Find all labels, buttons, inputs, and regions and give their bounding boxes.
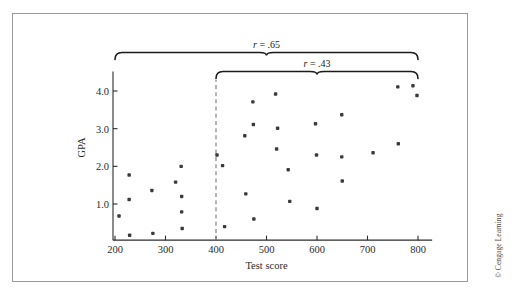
correlation-value: = .65 bbox=[257, 39, 280, 50]
x-tick-label: 800 bbox=[410, 244, 426, 255]
x-axis-title: Test score bbox=[245, 260, 287, 271]
data-point bbox=[180, 227, 183, 230]
x-tick-label: 300 bbox=[158, 244, 174, 255]
y-tick-label: 3.0 bbox=[87, 123, 109, 134]
y-axis-title: GPA bbox=[76, 124, 87, 172]
data-point bbox=[315, 153, 318, 156]
y-tick-label: 4.0 bbox=[87, 86, 109, 97]
data-point bbox=[415, 94, 418, 97]
data-point bbox=[174, 180, 177, 183]
data-points-group bbox=[117, 84, 418, 237]
data-point bbox=[275, 147, 278, 150]
data-point bbox=[340, 155, 343, 158]
data-point bbox=[221, 164, 224, 167]
data-point bbox=[128, 234, 131, 237]
y-tick-label: 1.0 bbox=[87, 199, 109, 210]
data-point bbox=[117, 214, 120, 217]
data-point bbox=[243, 134, 246, 137]
data-point bbox=[396, 85, 399, 88]
data-point bbox=[288, 200, 291, 203]
data-point bbox=[252, 217, 255, 220]
x-tick-label: 700 bbox=[360, 244, 376, 255]
data-point bbox=[251, 100, 254, 103]
x-tick-label: 200 bbox=[107, 244, 123, 255]
correlation-value: = .43 bbox=[307, 58, 330, 69]
data-point bbox=[340, 113, 343, 116]
data-point bbox=[397, 142, 400, 145]
data-point bbox=[314, 122, 317, 125]
data-point bbox=[276, 127, 279, 130]
axes-group bbox=[113, 71, 432, 240]
data-point bbox=[244, 192, 247, 195]
figure-container: 200300400500600700800 1.02.03.04.0 Test … bbox=[0, 0, 512, 292]
data-point bbox=[341, 179, 344, 182]
x-tick-label: 500 bbox=[259, 244, 275, 255]
data-point bbox=[127, 173, 130, 176]
data-point bbox=[287, 168, 290, 171]
data-point bbox=[150, 189, 153, 192]
data-point bbox=[223, 225, 226, 228]
copyright-credit: © Cengage Learning bbox=[494, 213, 503, 278]
data-point bbox=[274, 92, 277, 95]
x-tick-label: 400 bbox=[208, 244, 224, 255]
data-point bbox=[371, 151, 374, 154]
data-point bbox=[179, 165, 182, 168]
data-point bbox=[411, 84, 414, 87]
y-tick-label: 2.0 bbox=[87, 161, 109, 172]
data-point bbox=[151, 232, 154, 235]
brace-full-range-label: r = .65 bbox=[253, 39, 280, 50]
brace-restricted-range-label: r = .43 bbox=[303, 58, 330, 69]
data-point bbox=[180, 210, 183, 213]
data-point bbox=[127, 198, 130, 201]
brace-annotations-group bbox=[115, 53, 418, 79]
brace-restricted-range bbox=[216, 72, 418, 79]
data-point bbox=[215, 153, 218, 156]
brace-full-range bbox=[115, 53, 418, 60]
data-point bbox=[180, 195, 183, 198]
data-point bbox=[315, 207, 318, 210]
x-tick-label: 600 bbox=[309, 244, 325, 255]
data-point bbox=[252, 123, 255, 126]
